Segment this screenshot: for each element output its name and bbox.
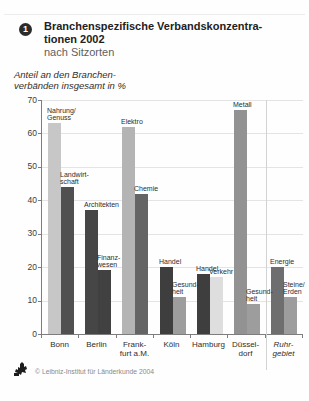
x-axis-label-kln: Köln bbox=[153, 340, 190, 349]
bar-label-line: Chemie bbox=[134, 185, 158, 192]
bar-label-line: Genuss bbox=[47, 114, 76, 121]
x-axis-label-line: Hamburg bbox=[190, 340, 227, 349]
x-axis-tick-5 bbox=[227, 335, 228, 338]
y-axis-label-60: 60 bbox=[17, 129, 37, 138]
bar-label-steineerden: Steine/Erden bbox=[283, 281, 305, 295]
bar-label-finanzwesen: Finanz-wesen bbox=[97, 254, 120, 268]
bar-label-gesundheit: Gesund-heit bbox=[246, 288, 273, 302]
bar-label-line: schaft bbox=[60, 178, 89, 185]
bar-nahrunggenuss bbox=[48, 123, 61, 334]
y-axis-tick-20 bbox=[38, 267, 41, 268]
x-axis-tick-1 bbox=[78, 335, 79, 338]
y-axis-tick-30 bbox=[38, 234, 41, 235]
x-axis-label-line: Berlin bbox=[78, 340, 115, 349]
bar-label-line: Handel bbox=[159, 258, 181, 265]
x-axis-label-hamburg: Hamburg bbox=[190, 340, 227, 349]
x-axis-tick-3 bbox=[153, 335, 154, 338]
figure-title: Branchenspezifische Verbandskonzentra- t… bbox=[44, 20, 300, 59]
institute-logo-icon bbox=[13, 360, 30, 377]
bar-label-line: Gesund- bbox=[172, 281, 199, 288]
y-axis-unit-note-line1: Anteil an den Branchen- bbox=[14, 69, 214, 80]
bar-label-line: wesen bbox=[97, 261, 120, 268]
figure-footer: © Leibniz-Institut für Länderkunde 2004 bbox=[13, 360, 303, 382]
bar-label-line: Gesund- bbox=[246, 288, 273, 295]
x-axis-tick-6 bbox=[265, 335, 266, 338]
bar-verkehr bbox=[210, 277, 223, 334]
x-axis-label-ruhrgebiet: Ruhr-gebiet bbox=[265, 340, 302, 358]
bar-label-line: Nahrung/ bbox=[47, 107, 76, 114]
figure-subtitle: nach Sitzorten bbox=[44, 46, 300, 59]
x-axis-label-line: furt a.M. bbox=[116, 349, 153, 358]
y-axis-tick-60 bbox=[38, 133, 41, 134]
bar-label-line: Finanz- bbox=[97, 254, 120, 261]
gridline-50 bbox=[42, 167, 303, 168]
gridline-30 bbox=[42, 234, 303, 235]
bar-gesundheit bbox=[173, 297, 186, 334]
y-axis-label-50: 50 bbox=[17, 162, 37, 171]
bar-chemie bbox=[135, 194, 148, 334]
y-axis-tick-70 bbox=[38, 100, 41, 101]
figure-title-line2: tionen 2002 bbox=[44, 33, 300, 46]
top-divider-rule bbox=[4, 14, 305, 15]
bar-label-line: heit bbox=[246, 295, 273, 302]
plot-area: Nahrung/GenussLandwirt-schaftArchitekten… bbox=[41, 100, 303, 335]
bar-label-line: Verkehr bbox=[209, 268, 233, 275]
y-axis-unit-note-line2: verbänden insgesamt in % bbox=[14, 80, 214, 91]
figure-number-badge: 1 bbox=[19, 23, 32, 36]
bar-label-line: Metall bbox=[233, 101, 252, 108]
bar-label-energie: Energie bbox=[270, 258, 294, 265]
bar-label-line: Energie bbox=[270, 258, 294, 265]
y-axis-label-0: 0 bbox=[17, 330, 37, 339]
y-axis-tick-50 bbox=[38, 167, 41, 168]
x-axis-label-line: Düssel- bbox=[227, 340, 264, 349]
bar-handel bbox=[160, 267, 173, 334]
bar-label-line: heit bbox=[172, 288, 199, 295]
x-axis-label-line: Bonn bbox=[41, 340, 78, 349]
bar-label-line: Elektro bbox=[121, 118, 143, 125]
bar-elektro bbox=[122, 127, 135, 334]
x-axis-label-bonn: Bonn bbox=[41, 340, 78, 349]
bar-label-elektro: Elektro bbox=[121, 118, 143, 125]
bar-steineerden bbox=[284, 297, 297, 334]
x-axis-label-line: Frank- bbox=[116, 340, 153, 349]
bar-label-line: Landwirt- bbox=[60, 171, 89, 178]
x-axis-label-line: gebiet bbox=[265, 349, 302, 358]
bar-label-gesundheit: Gesund-heit bbox=[172, 281, 199, 295]
bar-architekten bbox=[85, 210, 98, 334]
gridline-40 bbox=[42, 200, 303, 201]
x-axis-tick-2 bbox=[116, 335, 117, 338]
bar-gesundheit bbox=[247, 304, 260, 334]
bar-label-metall: Metall bbox=[233, 101, 252, 108]
x-axis-label-line: dorf bbox=[227, 349, 264, 358]
bar-label-handel: Handel bbox=[159, 258, 181, 265]
y-axis-tick-10 bbox=[38, 301, 41, 302]
figure-panel: 1 Branchenspezifische Verbandskonzentra-… bbox=[0, 0, 309, 401]
bar-label-chemie: Chemie bbox=[134, 185, 158, 192]
copyright-credit: © Leibniz-Institut für Länderkunde 2004 bbox=[35, 368, 154, 375]
y-axis-label-10: 10 bbox=[17, 296, 37, 305]
x-axis-label-frankfurtam: Frank-furt a.M. bbox=[116, 340, 153, 358]
y-axis-tick-40 bbox=[38, 200, 41, 201]
x-axis-tick-4 bbox=[190, 335, 191, 338]
gridline-60 bbox=[42, 133, 303, 134]
y-axis-label-40: 40 bbox=[17, 196, 37, 205]
bar-label-line: Erden bbox=[283, 288, 305, 295]
x-axis-label-line: Ruhr- bbox=[265, 340, 302, 349]
bar-finanzwesen bbox=[98, 270, 111, 334]
y-axis-label-70: 70 bbox=[17, 96, 37, 105]
y-axis-label-20: 20 bbox=[17, 263, 37, 272]
gridline-70 bbox=[42, 100, 303, 101]
y-axis-unit-note: Anteil an den Branchen- verbänden insges… bbox=[14, 69, 214, 91]
bar-label-architekten: Architekten bbox=[84, 201, 119, 208]
x-axis-tick-7 bbox=[302, 335, 303, 338]
bar-energie bbox=[271, 267, 284, 334]
y-axis-label-30: 30 bbox=[17, 229, 37, 238]
x-axis-tick-0 bbox=[41, 335, 42, 338]
bar-label-verkehr: Verkehr bbox=[209, 268, 233, 275]
x-axis-label-line: Köln bbox=[153, 340, 190, 349]
bar-label-line: Architekten bbox=[84, 201, 119, 208]
bar-label-landwirtschaft: Landwirt-schaft bbox=[60, 171, 89, 185]
bar-label-nahrunggenuss: Nahrung/Genuss bbox=[47, 107, 76, 121]
bar-label-line: Steine/ bbox=[283, 281, 305, 288]
bar-landwirtschaft bbox=[61, 187, 74, 334]
